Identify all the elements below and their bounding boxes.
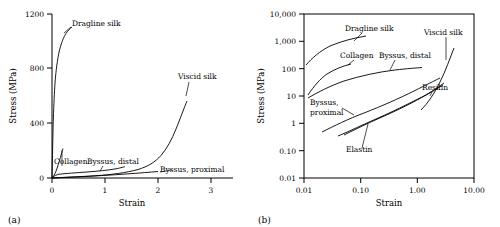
panel-b-annot-dragline-silk: Dragline silk [345, 24, 394, 33]
panel-b-annot-byssus-line2: proximal [310, 108, 344, 117]
panel-b-ytick-100: 100 [282, 65, 297, 74]
panel-b-xlabel: Strain [376, 198, 403, 208]
panel-b-plot: 10,000 1,000 100 10 1 0.10 0.01 0.01 0.1… [250, 0, 500, 210]
panel-a-ytick-0: 0 [39, 174, 44, 183]
panel-a-ytick-2: 800 [30, 64, 45, 73]
panel-a-xtick-1: 1 [103, 186, 108, 195]
panel-b-leader-byssus-proximal [342, 108, 354, 115]
panel-b-xtick-0.01: 0.01 [296, 186, 313, 195]
panel-a-x-ticks: 0 1 2 3 [50, 178, 214, 195]
panel-a-leader-viscid [186, 82, 189, 96]
panel-b-ylabel: Stress (MPa) [256, 68, 266, 124]
panel-b-annot-elastin: Elastin [346, 145, 373, 154]
panel-b-annot-byssus-distal: Byssus, distal [379, 51, 431, 60]
panel-a-ylabel: Stress (MPa) [8, 68, 18, 124]
panel-a-annot-viscid-silk: Viscid silk [177, 72, 217, 81]
panel-a-annot-dragline-silk: Dragline silk [72, 19, 121, 28]
panel-b-y-ticks: 10,000 1,000 100 10 1 0.10 0.01 [270, 10, 304, 183]
panel-b-frame [304, 14, 474, 178]
panel-b-curve-collagen [308, 64, 351, 95]
panel-b-xtick-0.10: 0.10 [352, 186, 369, 195]
panel-b-ytick-0.01: 0.01 [279, 174, 296, 183]
panel-b-ytick-1000: 1,000 [275, 37, 297, 46]
panel-a-axes [52, 14, 233, 178]
panel-a-xtick-3: 3 [209, 186, 214, 195]
panel-a-annot-byssus-proximal: Byssus, proximal [160, 165, 225, 174]
panel-a-annot-collagen: Collagen [54, 157, 88, 166]
panel-a-ytick-3: 1200 [25, 10, 44, 19]
panel-b-ytick-0.10: 0.10 [279, 147, 296, 156]
panel-b-xtick-1.00: 1.00 [409, 186, 426, 195]
figure-container: 0 400 800 1200 0 1 2 3 Strain Stress (MP… [0, 0, 500, 227]
panel-a-xtick-0: 0 [50, 186, 55, 195]
panel-b-ytick-1: 1 [291, 119, 296, 128]
panel-a-plot: 0 400 800 1200 0 1 2 3 Strain Stress (MP… [0, 0, 250, 210]
panel-b-x-ticks: 0.01 0.10 1.00 10.00 [296, 178, 485, 195]
panel-a-ytick-1: 400 [30, 119, 45, 128]
panel-a: 0 400 800 1200 0 1 2 3 Strain Stress (MP… [0, 0, 250, 227]
panel-a-annot-byssus-distal: Byssus, distal [87, 157, 139, 166]
panel-b-curve-byssus-distal [308, 68, 422, 99]
panel-a-tag: (a) [8, 215, 20, 225]
panel-b-annot-collagen: Collagen [340, 51, 374, 60]
panel-a-xlabel: Strain [119, 198, 146, 208]
panel-a-y-ticks: 0 400 800 1200 [25, 10, 52, 183]
panel-b-tag: (b) [258, 215, 271, 225]
panel-b-curve-elastin [338, 85, 443, 136]
panel-b-ytick-10000: 10,000 [270, 10, 296, 19]
panel-b-annot-resilin: Resilin [422, 83, 448, 92]
panel-b-ytick-10: 10 [286, 92, 296, 101]
panel-a-xtick-2: 2 [156, 186, 161, 195]
panel-b-annot-viscid-silk: Viscid silk [423, 28, 463, 37]
panel-b-leader-byssus-distal [390, 60, 395, 70]
panel-b-annot-byssus-line1: Byssus, [310, 98, 339, 107]
panel-b: 10,000 1,000 100 10 1 0.10 0.01 0.01 0.1… [250, 0, 500, 227]
panel-b-xtick-10.00: 10.00 [463, 186, 485, 195]
